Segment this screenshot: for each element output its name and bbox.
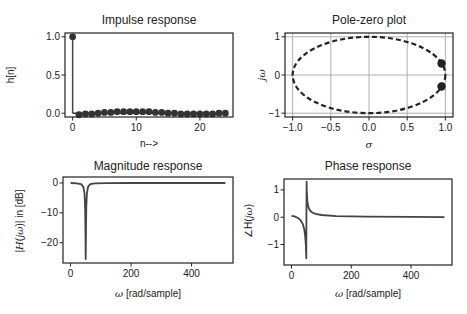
stem-marker xyxy=(82,111,89,118)
x-tick-label: 0.0 xyxy=(362,122,376,133)
y-axis-label: h[n] xyxy=(5,66,16,83)
y-axis-label: |H(jω)| in [dB] xyxy=(14,189,25,252)
y-tick-label: −10 xyxy=(41,207,58,218)
y-tick-label: 0 xyxy=(273,212,279,223)
x-axis-label: n--> xyxy=(140,138,158,149)
pole-zero-plot: Pole-zero plot −1.0−0.50.00.51.0−101 σ j… xyxy=(256,13,453,150)
y-tick-label: 0.0 xyxy=(46,108,60,119)
stem-marker xyxy=(139,108,146,115)
stem-marker xyxy=(69,33,76,40)
response-line xyxy=(71,183,226,259)
magnitude-axes: 02004000−10−20 xyxy=(41,177,233,279)
stem-marker xyxy=(152,109,159,116)
y-tick-label: 1.0 xyxy=(46,31,60,42)
stem-marker xyxy=(95,110,102,117)
pole-marker xyxy=(437,59,445,67)
x-axis-label: σ xyxy=(366,139,374,150)
x-tick-label: 0 xyxy=(289,270,295,281)
stem-marker xyxy=(171,110,178,117)
stem-marker xyxy=(88,111,95,118)
x-tick-label: 200 xyxy=(343,270,360,281)
pole-marker xyxy=(437,82,445,90)
stem-marker xyxy=(177,111,184,118)
stem-marker xyxy=(197,111,204,118)
stem-marker xyxy=(127,108,134,115)
stem-marker xyxy=(133,108,140,115)
axes-frame xyxy=(284,179,452,265)
impulse-axes: 010200.00.51.0 xyxy=(46,31,233,133)
plot-title: Magnitude response xyxy=(94,159,203,173)
magnitude-response-plot: Magnitude response 02004000−10−20 ω [rad… xyxy=(14,159,233,299)
axes-frame xyxy=(63,177,233,263)
x-tick-label: 1.0 xyxy=(438,122,452,133)
stem-marker xyxy=(190,111,197,118)
stem-marker xyxy=(146,108,153,115)
x-axis-label: ω [rad/sample] xyxy=(335,288,401,299)
stem-marker xyxy=(216,110,223,117)
stem-marker xyxy=(165,110,172,117)
stem-marker xyxy=(120,108,127,115)
stem-marker xyxy=(114,108,121,115)
y-tick-label: −20 xyxy=(41,237,58,248)
x-tick-label: −1.0 xyxy=(283,122,303,133)
plot-title: Phase response xyxy=(325,159,412,173)
pole-zero-axes: −1.0−0.50.00.51.0−101 xyxy=(269,31,453,133)
y-tick-label: 0 xyxy=(274,70,280,81)
y-tick-label: 1 xyxy=(273,184,279,195)
phase-response-plot: Phase response 020040010−1 ω [rad/sample… xyxy=(243,159,452,299)
stem-marker xyxy=(209,111,216,118)
x-axis-label: ω [rad/sample] xyxy=(115,288,181,299)
y-tick-label: 0 xyxy=(52,177,58,188)
x-tick-label: 400 xyxy=(403,270,420,281)
x-tick-label: 200 xyxy=(123,268,140,279)
figure: Impulse response 010200.00.51.0 n--> h[n… xyxy=(0,0,467,314)
stem-marker xyxy=(101,109,108,116)
x-tick-label: 0 xyxy=(70,122,76,133)
y-tick-label: −1 xyxy=(268,239,280,250)
y-axis-label: ∠H(jω) xyxy=(243,204,254,238)
x-tick-label: 20 xyxy=(194,122,206,133)
x-tick-label: 10 xyxy=(131,122,143,133)
phase-axes: 020040010−1 xyxy=(268,179,452,281)
y-tick-label: 0.5 xyxy=(46,70,60,81)
x-tick-label: −0.5 xyxy=(321,122,341,133)
stem-marker xyxy=(203,111,210,118)
plot-title: Impulse response xyxy=(102,13,197,27)
stem-marker xyxy=(107,109,114,116)
y-tick-label: 1 xyxy=(274,31,280,42)
stem-marker xyxy=(158,109,165,116)
y-axis-label: jω xyxy=(256,69,267,82)
axes-frame xyxy=(65,33,233,117)
y-tick-label: −1 xyxy=(269,108,281,119)
stem-marker xyxy=(222,110,229,117)
x-tick-label: 0 xyxy=(68,268,74,279)
plot-title: Pole-zero plot xyxy=(332,13,407,27)
stem-marker xyxy=(184,111,191,118)
x-tick-label: 0.5 xyxy=(400,122,414,133)
impulse-response-plot: Impulse response 010200.00.51.0 n--> h[n… xyxy=(5,13,233,149)
x-tick-label: 400 xyxy=(183,268,200,279)
response-line xyxy=(292,182,445,259)
